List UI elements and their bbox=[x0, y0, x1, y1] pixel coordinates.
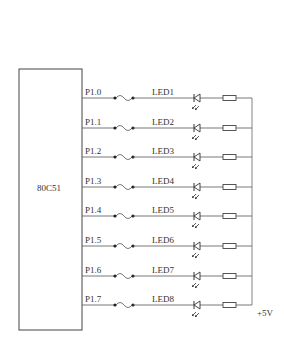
switch-icon bbox=[116, 274, 132, 279]
led-diode-icon bbox=[192, 124, 200, 140]
switch-icon bbox=[116, 214, 132, 219]
led-label: LED1 bbox=[152, 87, 174, 97]
resistor-icon bbox=[223, 126, 236, 131]
chip-label: 80C51 bbox=[37, 183, 61, 193]
resistor-icon bbox=[223, 155, 236, 160]
pin-label: P1.7 bbox=[85, 294, 102, 304]
led-row: P1.0LED1 bbox=[82, 87, 252, 110]
led-rows: P1.0LED1P1.1LED2P1.2LED3P1.3LED4P1.4LED5… bbox=[82, 87, 252, 317]
supply-label: +5V bbox=[257, 308, 274, 318]
resistor-icon bbox=[223, 274, 236, 279]
led-label: LED3 bbox=[152, 146, 174, 156]
led-label: LED4 bbox=[152, 176, 174, 186]
led-row: P1.6LED7 bbox=[82, 265, 252, 288]
led-row: P1.7LED8 bbox=[82, 294, 252, 317]
led-diode-icon bbox=[192, 242, 200, 258]
led-diode-icon bbox=[192, 301, 200, 317]
led-diode-icon bbox=[192, 94, 200, 110]
switch-icon bbox=[116, 185, 132, 190]
resistor-icon bbox=[223, 303, 236, 308]
led-label: LED5 bbox=[152, 205, 174, 215]
led-row: P1.1LED2 bbox=[82, 117, 252, 140]
led-diode-icon bbox=[192, 212, 200, 228]
pin-label: P1.2 bbox=[85, 146, 101, 156]
pin-label: P1.5 bbox=[85, 235, 102, 245]
pin-label: P1.1 bbox=[85, 117, 101, 127]
led-row: P1.2LED3 bbox=[82, 146, 252, 169]
switch-icon bbox=[116, 96, 132, 101]
resistor-icon bbox=[223, 96, 236, 101]
led-diode-icon bbox=[192, 183, 200, 199]
resistor-icon bbox=[223, 244, 236, 249]
resistor-icon bbox=[223, 185, 236, 190]
led-label: LED6 bbox=[152, 235, 174, 245]
led-circuit-diagram: 80C51 P1.0LED1P1.1LED2P1.2LED3P1.3LED4P1… bbox=[0, 0, 284, 340]
led-row: P1.5LED6 bbox=[82, 235, 252, 258]
pin-label: P1.4 bbox=[85, 205, 102, 215]
resistor-icon bbox=[223, 214, 236, 219]
switch-icon bbox=[116, 126, 132, 131]
switch-icon bbox=[116, 155, 132, 160]
led-diode-icon bbox=[192, 153, 200, 169]
led-row: P1.3LED4 bbox=[82, 176, 252, 199]
led-diode-icon bbox=[192, 272, 200, 288]
pin-label: P1.6 bbox=[85, 265, 102, 275]
chip-80c51 bbox=[19, 69, 82, 330]
led-label: LED7 bbox=[152, 265, 174, 275]
switch-icon bbox=[116, 244, 132, 249]
led-label: LED8 bbox=[152, 294, 174, 304]
pin-label: P1.0 bbox=[85, 87, 102, 97]
switch-icon bbox=[116, 303, 132, 308]
led-label: LED2 bbox=[152, 117, 174, 127]
pin-label: P1.3 bbox=[85, 176, 102, 186]
led-row: P1.4LED5 bbox=[82, 205, 252, 228]
